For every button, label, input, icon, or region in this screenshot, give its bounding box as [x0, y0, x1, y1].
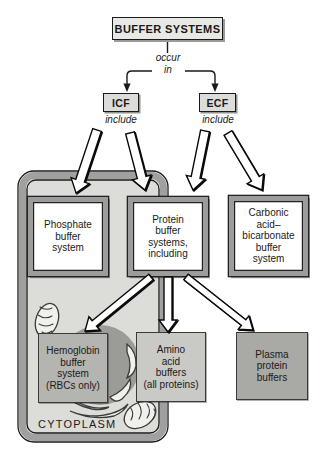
- arrowhead-icf-icon: [123, 84, 130, 93]
- arrow-ecf-to-protein: [186, 130, 209, 190]
- icf-box: ICF: [103, 93, 139, 112]
- title-box: BUFFER SYSTEMS: [112, 17, 223, 40]
- arrow-ecf-to-carbonic: [224, 131, 263, 190]
- icf-include-label: include: [91, 114, 151, 125]
- hemoglobin-buffer-box: Hemoglobin buffer system (RBCs only): [38, 333, 108, 403]
- ecf-include-label: include: [188, 114, 248, 125]
- buffer-systems-diagram: BUFFER SYSTEMS occur in ICF ECF include …: [0, 0, 329, 460]
- arrow-protein-to-hemoglobin: [85, 274, 153, 331]
- arrow-protein-to-amino: [159, 277, 177, 332]
- cytoplasm-label: CYTOPLASM: [38, 418, 158, 430]
- arrowhead-ecf-icon: [211, 84, 218, 93]
- ecf-label: ECF: [207, 97, 229, 109]
- arrow-icf-to-phosphate: [71, 129, 101, 193]
- connector-label-occur: occur: [133, 52, 203, 63]
- amino-acid-buffers-box: Amino acid buffers (all proteins): [136, 332, 206, 402]
- title-label: BUFFER SYSTEMS: [115, 23, 221, 35]
- icf-label: ICF: [112, 97, 130, 109]
- arrow-protein-to-plasma: [184, 274, 253, 330]
- plasma-protein-buffers-box: Plasma protein buffers: [236, 332, 308, 400]
- protein-buffer-box: Protein buffer systems, including: [128, 197, 208, 276]
- phosphate-buffer-box: Phosphate buffer system: [28, 197, 108, 276]
- ecf-box: ECF: [199, 93, 236, 112]
- carbonic-acid-bicarbonate-box: Carbonic acid– bicarbonate buffer system: [229, 196, 308, 276]
- arrow-icf-to-protein: [126, 132, 151, 190]
- connector-label-in: in: [133, 64, 203, 75]
